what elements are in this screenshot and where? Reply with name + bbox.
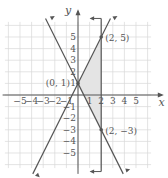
point-marker	[76, 82, 80, 86]
coordinate-plane: −5−4−3−2−11234554321−1−2−3−4−5 x y (0, 1…	[0, 0, 168, 178]
arrow-icon	[90, 169, 95, 173]
y-tick-label: 1	[70, 78, 76, 88]
y-tick-label: −2	[63, 113, 76, 123]
y-tick-label: −3	[63, 125, 77, 135]
arrow-icon	[35, 173, 40, 178]
x-tick-label: 3	[110, 96, 116, 106]
y-tick-label: 4	[70, 44, 76, 54]
point-marker	[99, 128, 103, 132]
y-axis-arrow-icon	[76, 9, 81, 15]
point-label-2-neg3: (2, −3)	[105, 126, 137, 136]
x-tick-label: 5	[133, 96, 139, 106]
arrow-icon	[125, 168, 130, 172]
y-tick-label: −1	[63, 102, 76, 112]
x-tick-label: 4	[122, 96, 128, 106]
y-tick-label: 2	[70, 67, 76, 77]
y-tick-label: −5	[63, 148, 77, 158]
point-label-0-1: (0, 1)	[46, 78, 70, 88]
x-tick-label: 2	[98, 96, 104, 106]
y-tick-label: 5	[70, 32, 76, 42]
point-marker	[99, 35, 103, 39]
arrow-icon	[112, 16, 117, 20]
arrow-icon	[50, 16, 55, 20]
x-tick-label: 1	[87, 96, 93, 106]
y-tick-label: −4	[63, 136, 77, 146]
x-axis-label: x	[158, 96, 165, 109]
arrow-icon	[90, 16, 95, 20]
point-label-2-5: (2, 5)	[105, 33, 129, 43]
y-tick-label: 3	[70, 55, 76, 65]
y-axis-label: y	[64, 4, 72, 17]
